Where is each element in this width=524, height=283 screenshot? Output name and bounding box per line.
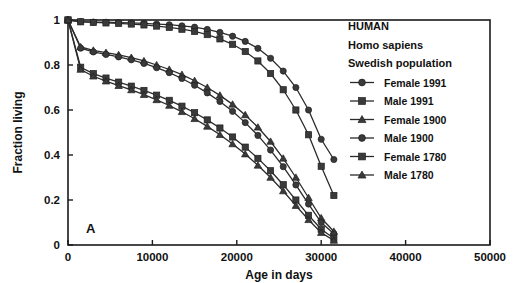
data-point-square (267, 70, 273, 76)
data-point-circle (103, 51, 109, 57)
data-point-circle (90, 49, 96, 55)
data-point-triangle (216, 92, 223, 98)
data-point-square (242, 144, 248, 150)
y-tick-label: 0 (54, 239, 60, 251)
data-point-square (229, 41, 235, 47)
data-point-circle (242, 38, 248, 44)
data-point-circle (267, 147, 273, 153)
survivorship-chart: 0100002000030000400005000000.20.40.60.81… (0, 0, 524, 283)
data-point-circle (116, 54, 122, 60)
data-point-square (103, 20, 109, 26)
data-point-triangle (216, 131, 223, 137)
data-point-square (204, 32, 210, 38)
data-point-circle (128, 57, 134, 63)
y-tick-label: 0.6 (44, 104, 60, 116)
data-point-circle (154, 65, 160, 71)
data-point-square (78, 19, 84, 25)
data-point-circle (305, 107, 311, 113)
data-point-square (280, 87, 286, 93)
panel-label: A (86, 221, 96, 236)
data-point-square (217, 36, 223, 42)
data-point-triangle (292, 174, 299, 180)
figure-panel: 0100002000030000400005000000.20.40.60.81… (0, 0, 524, 283)
y-tick-label: 0.2 (44, 194, 60, 206)
chart-canvas: 0100002000030000400005000000.20.40.60.81… (0, 0, 524, 283)
data-point-circle (255, 132, 261, 138)
x-tick-label: 10000 (136, 251, 168, 263)
legend-label: Male 1991 (384, 95, 434, 107)
data-point-circle (229, 33, 235, 39)
data-point-square (179, 26, 185, 32)
legend-header-line: Homo sapiens (348, 39, 423, 51)
data-point-triangle (204, 123, 211, 129)
data-point-circle (229, 108, 235, 114)
data-point-square (116, 20, 122, 26)
legend-label: Male 1780 (384, 169, 434, 181)
data-point-square (154, 23, 160, 29)
data-point-square (305, 132, 311, 138)
data-point-square (90, 19, 96, 25)
x-axis-label: Age in days (245, 268, 313, 282)
legend-label: Female 1780 (384, 151, 447, 163)
data-point-circle (179, 75, 185, 81)
legend-label: Male 1900 (384, 132, 434, 144)
data-point-circle (166, 70, 172, 76)
data-point-square (255, 58, 261, 64)
data-point-circle (141, 60, 147, 66)
data-point-circle (280, 164, 286, 170)
data-point-circle (359, 135, 366, 142)
data-point-circle (331, 156, 337, 162)
data-point-square (192, 28, 198, 34)
data-point-square (141, 22, 147, 28)
data-point-square (128, 21, 134, 27)
data-point-circle (280, 68, 286, 74)
data-point-circle (242, 120, 248, 126)
data-point-circle (318, 219, 324, 225)
data-point-square (242, 48, 248, 54)
y-tick-label: 0.8 (44, 59, 61, 71)
legend-label: Female 1991 (384, 77, 447, 89)
data-point-square (331, 192, 337, 198)
data-point-square (293, 107, 299, 113)
legend-label: Female 1900 (384, 114, 447, 126)
x-tick-label: 0 (65, 251, 71, 263)
data-point-circle (305, 201, 311, 207)
data-point-square (255, 155, 261, 161)
x-tick-label: 50000 (474, 251, 506, 263)
x-tick-label: 20000 (221, 251, 253, 263)
x-tick-label: 30000 (305, 251, 337, 263)
y-tick-label: 0.4 (44, 149, 61, 161)
data-point-square (318, 163, 324, 169)
data-point-square (166, 24, 172, 30)
data-point-triangle (204, 84, 211, 90)
legend-header-line: Swedish population (348, 57, 452, 69)
x-tick-label: 40000 (390, 251, 422, 263)
legend-header-line: HUMAN (348, 20, 389, 32)
data-point-square (359, 98, 366, 105)
data-point-circle (255, 45, 261, 51)
data-point-square (359, 153, 366, 160)
data-point-circle (217, 98, 223, 104)
data-point-circle (78, 45, 84, 51)
data-point-square (204, 117, 210, 123)
data-point-circle (192, 82, 198, 88)
data-point-circle (318, 136, 324, 142)
data-point-square (229, 134, 235, 140)
data-point-circle (204, 90, 210, 96)
data-point-circle (267, 55, 273, 61)
data-point-circle (359, 79, 366, 86)
data-point-triangle (229, 101, 236, 107)
y-tick-label: 1 (54, 14, 61, 26)
y-axis-label: Fraction living (11, 91, 25, 173)
data-point-circle (293, 84, 299, 90)
data-point-square (217, 125, 223, 131)
data-point-circle (217, 29, 223, 35)
data-point-circle (293, 182, 299, 188)
data-point-square (267, 168, 273, 174)
